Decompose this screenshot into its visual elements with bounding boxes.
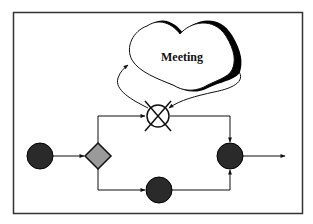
start-node bbox=[27, 143, 53, 169]
meeting-label: Meeting bbox=[161, 50, 203, 64]
merge-node bbox=[217, 143, 243, 169]
process-diagram: Meeting bbox=[0, 0, 313, 224]
cancelled-activity-node bbox=[145, 101, 171, 131]
activity-node bbox=[146, 177, 172, 203]
